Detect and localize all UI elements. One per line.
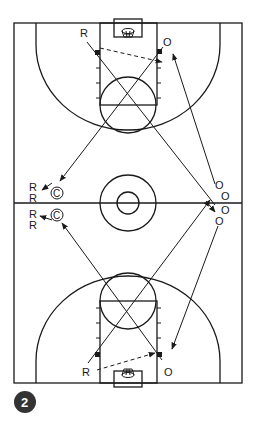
player-o-line-2: O <box>221 190 230 202</box>
bottom-half-court <box>36 273 220 387</box>
figure-number: 2 <box>21 395 28 410</box>
drill-paths <box>40 42 218 370</box>
player-o-top: O <box>163 36 172 48</box>
basket-bottom-icon <box>122 369 134 378</box>
player-r-line-2: R <box>29 192 37 204</box>
top-half-court <box>36 19 220 133</box>
basket-top-icon <box>122 29 134 38</box>
player-r-top: R <box>80 27 88 39</box>
player-r-line-4: R <box>29 219 37 231</box>
pass-c-to-r-top <box>42 183 52 190</box>
coach-c-top: C <box>53 188 60 199</box>
path-right-o-to-bottom <box>172 226 218 349</box>
coach-c-bottom: C <box>53 210 60 221</box>
pass-c-to-r-bottom <box>40 216 52 220</box>
path-bottom-r-to-right <box>88 200 210 363</box>
path-right-o-to-top <box>173 54 215 184</box>
lane-hash-marks-top <box>96 68 161 98</box>
pass-top-o-to-left-c <box>60 47 163 181</box>
player-r-bottom: R <box>82 366 90 378</box>
player-o-bottom: O <box>164 366 173 378</box>
pass-bottom-o-to-left-c <box>62 223 162 360</box>
basketball-drill-diagram: R O R O C C R R R R O O O O 2 <box>0 0 257 433</box>
figure-number-badge: 2 <box>14 391 36 413</box>
player-o-line-4: O <box>215 215 224 227</box>
lane-hash-marks-bottom <box>96 308 161 338</box>
backboard-bottom <box>114 371 142 387</box>
pass-dashed-bottom <box>97 353 155 370</box>
